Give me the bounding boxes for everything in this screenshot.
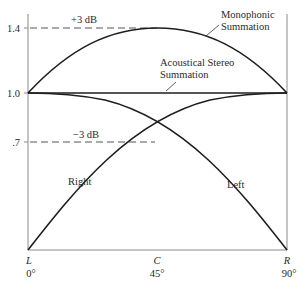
minus-3db-label: −3 dB	[73, 129, 99, 140]
pan-law-chart: +3 dB −3 dB Monophonic Summation Acousti…	[0, 0, 306, 288]
left-curve-label: Left	[227, 179, 245, 190]
y-label-0.7: .7	[12, 137, 20, 148]
x-angle-90: 90°	[282, 268, 297, 279]
stereo-pointer-arrow	[166, 82, 176, 91]
x-angle-0: 0°	[26, 268, 35, 279]
y-label-1.0: 1.0	[7, 88, 20, 99]
stereo-label-line1: Acoustical Stereo	[160, 57, 234, 68]
right-curve	[28, 93, 287, 250]
mono-pointer-arrow	[206, 25, 219, 36]
x-letter-C: C	[153, 255, 161, 266]
x-angle-45: 45°	[150, 268, 165, 279]
y-label-1.4: 1.4	[7, 23, 21, 34]
mono-summation-curve	[28, 28, 287, 93]
plus-3db-label: +3 dB	[71, 14, 97, 25]
right-curve-label: Right	[68, 176, 91, 187]
x-letter-L: L	[25, 255, 32, 266]
left-curve	[28, 93, 287, 250]
x-letter-R: R	[283, 255, 291, 266]
mono-label-line1: Monophonic	[221, 9, 275, 20]
mono-label-line2: Summation	[221, 21, 270, 32]
stereo-label-line2: Summation	[160, 69, 209, 80]
